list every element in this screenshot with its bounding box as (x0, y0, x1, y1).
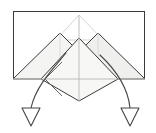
origami-diagram-svg: Origami folding step diagram (0, 0, 156, 133)
origami-diagram-container: Origami folding step diagram (0, 0, 156, 133)
